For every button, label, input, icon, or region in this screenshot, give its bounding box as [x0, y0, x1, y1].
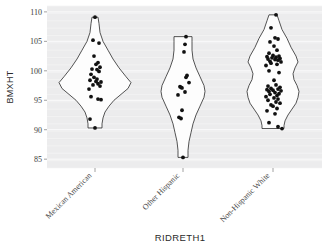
data-point	[275, 62, 279, 66]
y-tick-label: 100	[30, 67, 42, 76]
data-point	[272, 96, 276, 100]
data-point	[183, 42, 187, 46]
x-axis-title: RIDRETH1	[155, 232, 206, 243]
data-point	[274, 13, 278, 17]
violin-plot-figure: 859095100105110 Mexican AmericanOther Hi…	[0, 0, 332, 252]
data-point	[275, 48, 279, 52]
data-point	[277, 71, 281, 75]
data-point	[184, 35, 188, 39]
data-point	[269, 26, 273, 30]
data-point	[276, 125, 280, 129]
data-point	[269, 61, 273, 65]
data-point	[94, 62, 98, 66]
y-tick-label: 110	[30, 8, 42, 17]
data-point	[280, 127, 284, 131]
data-point	[180, 108, 184, 112]
data-point	[274, 100, 278, 104]
data-point	[268, 40, 272, 44]
data-point	[184, 75, 188, 79]
data-point	[98, 65, 102, 69]
data-point	[97, 41, 101, 45]
data-point	[272, 78, 276, 82]
data-point	[87, 87, 91, 91]
data-point	[275, 94, 279, 98]
data-point	[88, 117, 92, 121]
data-point	[275, 107, 279, 111]
data-point	[271, 104, 275, 108]
data-point	[99, 98, 103, 102]
data-point	[267, 121, 271, 125]
data-point	[267, 69, 271, 73]
data-point	[176, 93, 180, 97]
data-point	[89, 95, 93, 99]
data-point	[92, 54, 96, 58]
data-point	[264, 95, 268, 99]
y-tick-label: 105	[30, 37, 42, 46]
data-point	[98, 84, 102, 88]
chart-svg: 859095100105110 Mexican AmericanOther Hi…	[0, 0, 332, 252]
data-point	[183, 90, 187, 94]
data-point	[274, 83, 278, 87]
data-point	[267, 51, 271, 55]
data-point	[272, 44, 276, 48]
y-tick-label: 90	[34, 126, 42, 135]
data-point	[266, 84, 270, 88]
data-point	[276, 37, 280, 41]
y-axis-title: BMXHT	[5, 70, 15, 103]
data-point	[266, 98, 270, 102]
data-point	[93, 126, 97, 130]
data-point	[179, 117, 183, 121]
data-point	[180, 86, 184, 90]
y-tick-label: 85	[34, 155, 42, 164]
data-point	[265, 109, 269, 113]
data-point	[279, 60, 283, 64]
data-point	[91, 83, 95, 87]
data-point	[278, 101, 282, 105]
data-point	[97, 69, 101, 73]
data-point	[268, 92, 272, 96]
data-point	[273, 112, 277, 116]
data-point	[264, 64, 268, 68]
data-point	[181, 156, 185, 160]
y-tick-label: 95	[34, 96, 42, 105]
data-point	[187, 81, 191, 85]
data-point	[90, 67, 94, 71]
data-point	[91, 38, 95, 42]
data-point	[182, 50, 186, 54]
data-point	[89, 72, 93, 76]
data-point	[93, 15, 97, 19]
data-point	[88, 78, 92, 82]
